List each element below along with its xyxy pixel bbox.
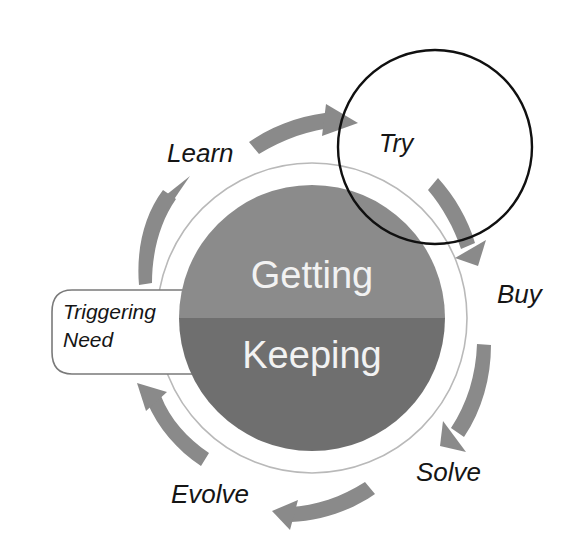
arrow-trigger-to-learn <box>138 176 190 285</box>
arrow-solve-to-evolve <box>272 482 375 530</box>
stage-label-learn: Learn <box>167 138 234 168</box>
stage-label-buy: Buy <box>497 279 544 309</box>
lifecycle-diagram: Getting Keeping <box>0 0 575 558</box>
core-label-getting: Getting <box>251 254 374 296</box>
triggering-need-line-1: Triggering <box>63 300 156 323</box>
stage-label-evolve: Evolve <box>171 479 249 509</box>
diagram-canvas: Getting Keeping <box>0 0 575 558</box>
arrow-buy-to-solve <box>440 344 491 452</box>
core-label-keeping: Keeping <box>242 334 381 376</box>
triggering-need-line-2: Need <box>63 328 115 351</box>
arrow-evolve-to-trigger <box>137 383 209 466</box>
stage-label-try: Try <box>379 129 415 157</box>
try-overlay-circle <box>338 50 532 244</box>
stage-label-solve: Solve <box>416 457 481 487</box>
